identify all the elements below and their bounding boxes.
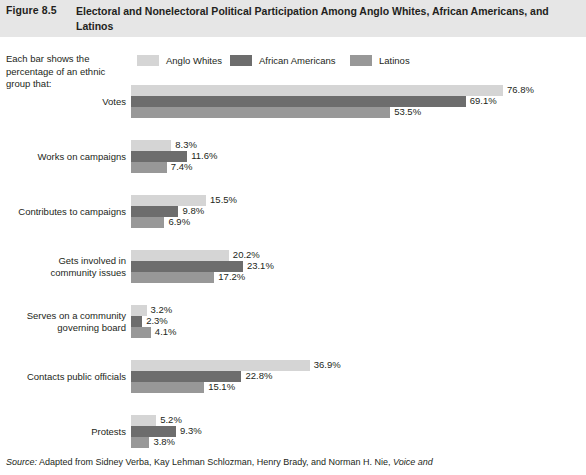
figure-number: Figure 8.5 [6, 4, 57, 16]
bar-group: 20.2%23.1%17.2% [131, 250, 581, 283]
chart-group: Protests5.2%9.3%3.8% [0, 415, 586, 448]
bar [131, 382, 204, 393]
bar-row: 22.8% [131, 371, 581, 382]
bar-value-label: 5.2% [160, 414, 182, 426]
bar-row: 3.8% [131, 437, 581, 448]
bar [131, 250, 229, 261]
category-label-line: Serves on a community [27, 310, 126, 322]
bar-group: 36.9%22.8%15.1% [131, 360, 581, 393]
bar-value-label: 23.1% [247, 260, 274, 272]
bar-value-label: 69.1% [470, 95, 497, 107]
category-label-line: governing board [57, 322, 126, 334]
category-label: Gets involved incommunity issues [0, 250, 126, 283]
bar [131, 140, 171, 151]
category-label-line: Gets involved in [58, 255, 126, 267]
legend-swatch-african-americans [230, 55, 252, 66]
bar-row: 53.5% [131, 107, 581, 118]
category-label-line: Protests [91, 426, 126, 438]
bar-row: 23.1% [131, 261, 581, 272]
figure-title: Electoral and Nonelectoral Political Par… [76, 4, 580, 34]
bar [131, 107, 390, 118]
bar-row: 36.9% [131, 360, 581, 371]
category-label: Serves on a communitygoverning board [0, 305, 126, 338]
bar-group: 8.3%11.6%7.4% [131, 140, 581, 173]
bar [131, 162, 167, 173]
chart-group: Gets involved incommunity issues20.2%23.… [0, 250, 586, 283]
source-body: Adapted from Sidney Verba, Kay Lehman Sc… [37, 457, 393, 467]
bar [131, 327, 151, 338]
bar-row: 2.3% [131, 316, 581, 327]
chart-group: Contributes to campaigns15.5%9.8%6.9% [0, 195, 586, 228]
bar-value-label: 6.9% [168, 216, 190, 228]
chart-group: Serves on a communitygoverning board3.2%… [0, 305, 586, 338]
bar [131, 217, 164, 228]
bar [131, 85, 503, 96]
bar-value-label: 9.3% [180, 425, 202, 437]
category-label-line: Contributes to campaigns [18, 206, 126, 218]
legend-label-anglo-whites: Anglo Whites [166, 55, 222, 66]
bar-row: 7.4% [131, 162, 581, 173]
bar [131, 415, 156, 426]
bar-value-label: 53.5% [394, 106, 421, 118]
bar-row: 69.1% [131, 96, 581, 107]
category-label: Contacts public officials [0, 360, 126, 393]
bar-row: 15.1% [131, 382, 581, 393]
category-label: Works on campaigns [0, 140, 126, 173]
bar-value-label: 4.1% [155, 326, 177, 338]
chart-group: Contacts public officials36.9%22.8%15.1% [0, 360, 586, 393]
bar-value-label: 3.8% [153, 436, 175, 448]
bar-row: 4.1% [131, 327, 581, 338]
bar-row: 9.8% [131, 206, 581, 217]
chart-legend: Anglo Whites African Americans Latinos [131, 53, 581, 67]
bar-row: 6.9% [131, 217, 581, 228]
chart-group: Works on campaigns8.3%11.6%7.4% [0, 140, 586, 173]
bar [131, 360, 310, 371]
category-label: Contributes to campaigns [0, 195, 126, 228]
bar-row: 20.2% [131, 250, 581, 261]
legend-item-anglo-whites: Anglo Whites [137, 53, 222, 67]
bar [131, 305, 147, 316]
legend-item-african-americans: African Americans [230, 53, 336, 67]
bar-value-label: 76.8% [507, 84, 534, 96]
chart-plot-area: Votes76.8%69.1%53.5%Works on campaigns8.… [0, 85, 586, 445]
figure-header-band: Figure 8.5 Electoral and Nonelectoral Po… [0, 0, 586, 37]
source-prefix: Source: [6, 457, 37, 467]
bar-group: 5.2%9.3%3.8% [131, 415, 581, 448]
bar-group: 3.2%2.3%4.1% [131, 305, 581, 338]
bar-row: 3.2% [131, 305, 581, 316]
bar [131, 437, 149, 448]
bar-group: 15.5%9.8%6.9% [131, 195, 581, 228]
bar-value-label: 17.2% [218, 271, 245, 283]
legend-item-latinos: Latinos [350, 53, 410, 67]
bar-value-label: 11.6% [191, 150, 217, 162]
bar-value-label: 36.9% [314, 359, 341, 371]
category-label-line: Works on campaigns [37, 151, 126, 163]
bar-group: 76.8%69.1%53.5% [131, 85, 581, 118]
bar-row: 76.8% [131, 85, 581, 96]
category-label: Protests [0, 415, 126, 448]
legend-label-latinos: Latinos [379, 55, 410, 66]
source-note: Source: Adapted from Sidney Verba, Kay L… [6, 456, 582, 468]
category-label: Votes [0, 85, 126, 118]
category-label-line: Votes [102, 96, 126, 108]
source-title: Voice and [393, 457, 433, 467]
chart-group: Votes76.8%69.1%53.5% [0, 85, 586, 118]
bar-row: 11.6% [131, 151, 581, 162]
bar-value-label: 7.4% [171, 161, 193, 173]
bar [131, 272, 214, 283]
bar-row: 17.2% [131, 272, 581, 283]
legend-swatch-anglo-whites [137, 55, 159, 66]
legend-swatch-latinos [350, 55, 372, 66]
legend-label-african-americans: African Americans [259, 55, 336, 66]
bar-value-label: 22.8% [245, 370, 272, 382]
bar-value-label: 15.5% [210, 194, 237, 206]
bar [131, 316, 142, 327]
category-label-line: Contacts public officials [27, 371, 126, 383]
bar-value-label: 15.1% [208, 381, 235, 393]
category-label-line: community issues [51, 267, 127, 279]
bar-row: 9.3% [131, 426, 581, 437]
